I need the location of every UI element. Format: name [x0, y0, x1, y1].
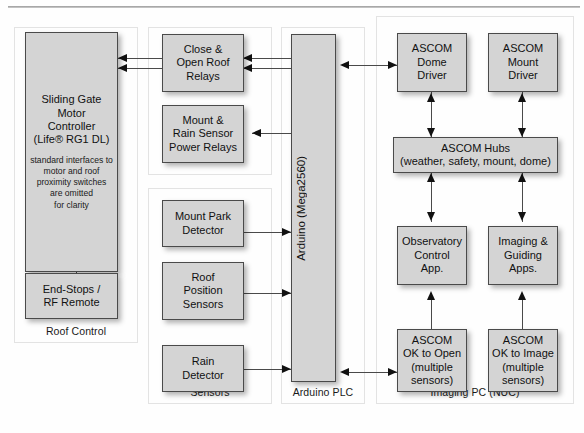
arrowhead-hubs-up-from-imaging: [518, 173, 526, 182]
arrowhead-imaging-down: [518, 212, 526, 221]
sliding-gate-line1: Sliding Gate: [28, 93, 115, 106]
box-ascom-hubs[interactable]: ASCOM Hubs (weather, safety, mount, dome…: [393, 137, 558, 173]
power-relays-line1: Mount &: [165, 114, 241, 127]
ok-to-open-line4: sensors): [400, 374, 464, 387]
sliding-gate-line4: (Life® RG1 DL): [28, 133, 115, 146]
roof-relays-line3: Relays: [165, 70, 241, 83]
arrowhead-arduino-from-oktoopen: [340, 368, 349, 376]
roof-position-line2: Position: [165, 284, 241, 297]
ok-to-open-line2: OK to Open: [400, 347, 464, 360]
ok-to-image-line1: ASCOM: [491, 334, 555, 347]
ok-to-image-line2: OK to Image: [491, 347, 555, 360]
power-relays-line3: Power Relays: [165, 141, 241, 154]
power-relays-line2: Rain Sensor: [165, 127, 241, 140]
roof-position-line1: Roof: [165, 271, 241, 284]
arrowhead-hubs-down-from-dome: [427, 128, 435, 137]
box-observatory-control-app[interactable]: Observatory Control App.: [397, 226, 467, 285]
box-mount-rain-sensor-power-relays[interactable]: Mount & Rain Sensor Power Relays: [162, 105, 244, 163]
roof-position-line3: Sensors: [165, 298, 241, 311]
box-end-stops-rf-remote[interactable]: End-Stops / RF Remote: [25, 273, 118, 319]
arrowhead-arduino-from-rain: [282, 365, 291, 373]
imaging-apps-line1: Imaging &: [491, 235, 555, 248]
dome-driver-line1: ASCOM: [400, 42, 464, 55]
connector-oktoimage-to-imaging: [522, 295, 523, 329]
arrowhead-hubs-up-from-observatory: [427, 173, 435, 182]
arrowhead-domedriver-from-arduino: [388, 61, 397, 69]
observatory-app-line2: Control: [400, 249, 464, 262]
box-imaging-guiding-apps[interactable]: Imaging & Guiding Apps.: [488, 226, 558, 285]
roof-relays-line1: Close &: [165, 43, 241, 56]
arrowhead-gate-lower: [118, 64, 127, 72]
end-stops-line2: RF Remote: [28, 296, 115, 309]
box-sliding-gate-motor-controller[interactable]: Sliding Gate Motor Controller (Life® RG1…: [25, 32, 118, 272]
sliding-gate-note3: proximity switches: [28, 177, 115, 188]
dome-driver-line2: Dome: [400, 56, 464, 69]
dome-driver-line3: Driver: [400, 69, 464, 82]
ok-to-open-line3: (multiple: [400, 361, 464, 374]
imaging-apps-line2: Guiding: [491, 249, 555, 262]
box-rain-detector[interactable]: Rain Detector: [162, 345, 244, 392]
arrowhead-roof-relays-upper: [243, 54, 252, 62]
arrowhead-roof-relays-lower: [243, 64, 252, 72]
arrowhead-observatory-from-oktoopen: [427, 291, 435, 300]
box-roof-position-sensors[interactable]: Roof Position Sensors: [162, 262, 244, 320]
roof-relays-line2: Open Roof: [165, 56, 241, 69]
mount-park-line1: Mount Park: [165, 210, 241, 223]
diagram-canvas: Roof Control Sensors Arduino PLC Imaging…: [0, 0, 584, 433]
arrowhead-domedriver-up: [427, 93, 435, 102]
box-ascom-ok-to-open[interactable]: ASCOM OK to Open (multiple sensors): [397, 329, 467, 392]
ok-to-open-line1: ASCOM: [400, 334, 464, 347]
panel-label-roof-control: Roof Control: [14, 325, 138, 337]
arrowhead-arduino-from-domedriver: [340, 61, 349, 69]
top-rule: [8, 6, 580, 8]
sliding-gate-note1: standard interfaces to: [28, 155, 115, 166]
arrowhead-hubs-down-from-mount: [518, 128, 526, 137]
mount-park-line2: Detector: [165, 224, 241, 237]
mount-driver-line2: Mount: [491, 56, 555, 69]
arduino-label: Arduino (Mega2560): [294, 156, 333, 261]
ascom-hubs-line1: ASCOM Hubs: [396, 142, 555, 155]
sliding-gate-note2: motor and roof: [28, 166, 115, 177]
observatory-app-line3: App.: [400, 262, 464, 275]
panel-label-arduino-plc: Arduino PLC: [281, 386, 365, 398]
end-stops-line1: End-Stops /: [28, 283, 115, 296]
arrowhead-observatory-down: [427, 212, 435, 221]
rain-detector-line2: Detector: [165, 369, 241, 382]
imaging-apps-line3: Apps.: [491, 262, 555, 275]
rain-detector-line1: Rain: [165, 355, 241, 368]
sliding-gate-note4: are omitted: [28, 188, 115, 199]
arrowhead-arduino-from-mountpark: [282, 228, 291, 236]
box-close-open-roof-relays[interactable]: Close & Open Roof Relays: [162, 34, 244, 92]
arrowhead-oktoopen-from-arduino: [388, 368, 397, 376]
arrowhead-power-relays: [252, 129, 261, 137]
arrowhead-gate-upper: [118, 54, 127, 62]
box-ascom-ok-to-image[interactable]: ASCOM OK to Image (multiple sensors): [488, 329, 558, 392]
mount-driver-line1: ASCOM: [491, 42, 555, 55]
sliding-gate-note5: for clarity: [28, 200, 115, 211]
ok-to-image-line3: (multiple: [491, 361, 555, 374]
ok-to-image-line4: sensors): [491, 374, 555, 387]
ascom-hubs-line2: (weather, safety, mount, dome): [396, 155, 555, 168]
arrowhead-mountdriver-up: [518, 93, 526, 102]
box-arduino-mega2560[interactable]: Arduino (Mega2560): [291, 34, 336, 382]
box-mount-park-detector[interactable]: Mount Park Detector: [162, 200, 244, 247]
arrowhead-arduino-from-roofposition: [282, 289, 291, 297]
sliding-gate-line3: Controller: [28, 120, 115, 133]
sliding-gate-line2: Motor: [28, 107, 115, 120]
observatory-app-line1: Observatory: [400, 235, 464, 248]
box-ascom-dome-driver[interactable]: ASCOM Dome Driver: [397, 33, 467, 92]
mount-driver-line3: Driver: [491, 69, 555, 82]
box-ascom-mount-driver[interactable]: ASCOM Mount Driver: [488, 33, 558, 92]
arrowhead-imaging-from-oktoimage: [518, 291, 526, 300]
connector-oktoopen-to-observatory: [431, 295, 432, 329]
